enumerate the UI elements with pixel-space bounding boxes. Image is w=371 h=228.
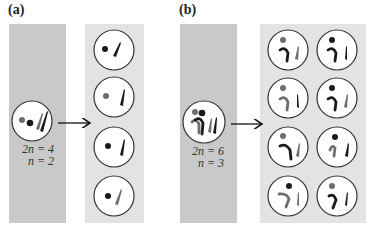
panel-b-daughter-cell	[268, 176, 308, 216]
panel-a-parent-cell	[12, 101, 52, 141]
panel-a-daughter-cell	[94, 30, 134, 70]
panel-a-daughter-cell	[94, 176, 134, 216]
panel-b-daughter-cell	[268, 30, 308, 70]
panel-b-daughter-cell	[268, 78, 308, 118]
panel-a-daughter-cell	[94, 127, 134, 167]
panel-b-daughter-cell	[317, 78, 357, 118]
diagram-graphics	[0, 0, 371, 228]
panel-b-daughter-cell	[317, 127, 357, 167]
panel-a-daughter-cell	[94, 77, 134, 117]
panel-b-daughter-cell	[268, 127, 308, 167]
panel-b-parent-cell	[183, 101, 225, 143]
panel-b-daughter-cell	[317, 30, 357, 70]
panel-b-daughter-cell	[317, 176, 357, 216]
